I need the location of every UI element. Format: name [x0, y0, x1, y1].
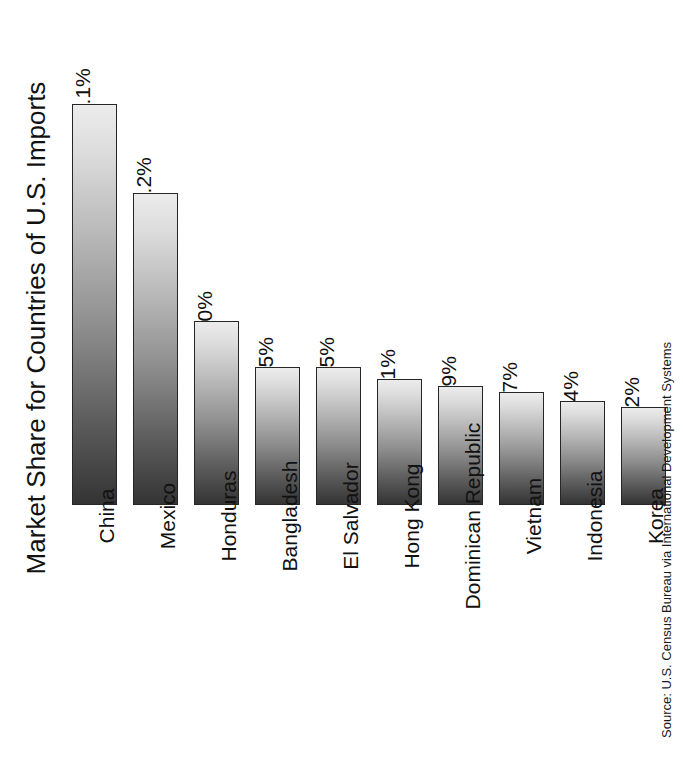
bar-group: 4.1%Hong Kong — [369, 0, 430, 776]
bar-value-label: 4.5% — [255, 281, 300, 361]
category-label-text: Bangladesh — [278, 461, 302, 572]
bar-group: 3.9%Dominican Republic — [430, 0, 491, 776]
bar-group: 10.2%Mexico — [125, 0, 186, 776]
category-label-text: Indonesia — [583, 470, 607, 561]
category-label-text: China — [95, 489, 119, 544]
bar-value-label: 6.0% — [194, 235, 239, 315]
bar-group: 4.5%El Salvador — [308, 0, 369, 776]
bar-value-label: 3.7% — [499, 306, 544, 386]
bar-value-label: 4.1% — [377, 293, 422, 373]
category-label: Indonesia — [560, 516, 605, 726]
bar — [72, 104, 117, 505]
source-note: Source: U.S. Census Bureau via Internati… — [651, 330, 681, 750]
category-label-text: Honduras — [217, 470, 241, 561]
bar-value-label: 3.9% — [438, 300, 483, 380]
bar-chart: Market Share for Countries of U.S. Impor… — [0, 0, 683, 776]
bar-value-label: 10.2% — [133, 107, 178, 187]
bar-group: 13.1%China — [64, 0, 125, 776]
category-label: El Salvador — [316, 516, 361, 726]
category-label: Mexico — [133, 516, 178, 726]
category-label: Dominican Republic — [438, 516, 483, 726]
category-label: Honduras — [194, 516, 239, 726]
plot-area: 13.1%China10.2%Mexico6.0%Honduras4.5%Ban… — [64, 0, 654, 776]
category-label-text: Vietnam — [522, 478, 546, 555]
category-label-text: Dominican Republic — [461, 423, 485, 610]
chart-title: Market Share for Countries of U.S. Impor… — [10, 18, 62, 638]
bar-group: 3.4%Indonesia — [552, 0, 613, 776]
category-label-text: Hong Kong — [400, 463, 424, 568]
category-label-text: El Salvador — [339, 462, 363, 569]
bar-value-label: 3.4% — [560, 315, 605, 395]
bar-group: 4.5%Bangladesh — [247, 0, 308, 776]
category-label: Vietnam — [499, 516, 544, 726]
source-note-text: Source: U.S. Census Bureau via Internati… — [659, 342, 674, 738]
bar-value-label: 13.1% — [72, 18, 117, 98]
bar-group: 6.0%Honduras — [186, 0, 247, 776]
category-label-text: Mexico — [156, 483, 180, 550]
bar-group: 3.7%Vietnam — [491, 0, 552, 776]
chart-title-text: Market Share for Countries of U.S. Impor… — [10, 18, 62, 638]
category-label: Hong Kong — [377, 516, 422, 726]
bar-value-label: 4.5% — [316, 281, 361, 361]
category-label: China — [72, 516, 117, 726]
bar — [133, 193, 178, 505]
category-label: Bangladesh — [255, 516, 300, 726]
